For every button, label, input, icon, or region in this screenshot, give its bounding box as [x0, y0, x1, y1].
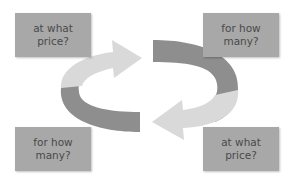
box-text-line2: price? — [33, 35, 73, 48]
box-bottom-left-for-how-many: for how many? — [15, 127, 91, 171]
box-text-line1: at what — [33, 22, 73, 35]
box-text-line1: for how — [33, 136, 72, 149]
box-text-line2: many? — [221, 35, 260, 48]
box-text-line1: at what — [221, 136, 261, 149]
box-top-right-for-how-many: for how many? — [203, 13, 279, 57]
box-bottom-right-at-what-price: at what price? — [203, 127, 279, 171]
box-text-line1: for how — [221, 22, 260, 35]
box-text-line2: price? — [221, 149, 261, 162]
box-top-left-at-what-price: at what price? — [15, 13, 91, 57]
box-text-line2: many? — [33, 149, 72, 162]
